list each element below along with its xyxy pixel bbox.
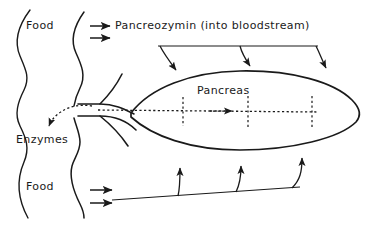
- diagram-canvas: Food Enzymes Food Pancreozymin (into blo…: [0, 0, 377, 230]
- label-pancreozymin: Pancreozymin (into bloodstream): [115, 19, 310, 32]
- pancreozymin-to-pancreas-arrows: [158, 46, 326, 70]
- label-food-top: Food: [26, 19, 54, 32]
- food-to-pancreas-arrows: [112, 158, 302, 200]
- label-pancreas: Pancreas: [197, 84, 250, 97]
- label-enzymes: Enzymes: [16, 133, 68, 146]
- label-food-bottom: Food: [26, 180, 54, 193]
- food-bottom-arrows: [90, 190, 112, 203]
- diagram-svg: [0, 0, 377, 230]
- pancreas-body: [131, 71, 359, 150]
- food-top-arrows: [90, 26, 110, 38]
- gut-inner-wall-upper: [73, 12, 84, 106]
- gut-inner-wall-lower: [71, 118, 84, 218]
